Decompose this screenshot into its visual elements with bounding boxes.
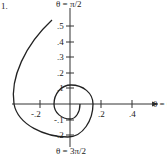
y-tick-label: .1 <box>57 84 64 93</box>
theta-zero-label: θ = 0 <box>153 100 167 109</box>
x-tick-label: .4 <box>129 110 136 119</box>
theta-pi-over-2-label: θ = π/2 <box>56 0 81 9</box>
polar-plot <box>0 0 167 157</box>
y-tick-label: .2 <box>57 69 64 78</box>
y-tick-label: .5 <box>57 22 64 31</box>
x-tick-label: .2 <box>98 110 105 119</box>
y-tick-label: -.1 <box>54 116 64 125</box>
y-tick-label: .4 <box>57 38 64 47</box>
x-tick-label: -.2 <box>31 110 41 119</box>
y-tick-label: .3 <box>57 53 64 62</box>
y-tick-label: -.2 <box>54 131 64 140</box>
theta-3pi-over-2-label: θ = 3π/2 <box>56 147 86 156</box>
